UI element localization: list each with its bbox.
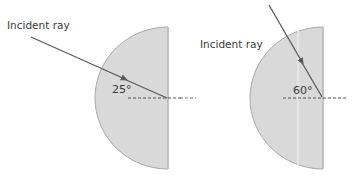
left-diagram: Incident ray 25° bbox=[7, 19, 182, 169]
right-incident-ray-label: Incident ray bbox=[200, 38, 263, 50]
left-angle-label: 25° bbox=[112, 83, 132, 96]
refraction-diagram: Incident ray 25° Incident ray 60° bbox=[0, 0, 352, 179]
right-diagram: Incident ray 60° bbox=[180, 5, 348, 169]
left-incident-ray-label: Incident ray bbox=[7, 19, 70, 31]
right-angle-label: 60° bbox=[293, 84, 313, 97]
left-semicircle-block bbox=[95, 27, 168, 169]
